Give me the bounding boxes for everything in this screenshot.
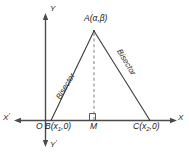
label-point-b-sub: 1 bbox=[58, 126, 61, 132]
label-point-a: A(α,β) bbox=[84, 14, 107, 23]
label-point-c-sub: 2 bbox=[146, 126, 149, 132]
label-point-c: C(x2,0) bbox=[133, 122, 160, 131]
label-origin: O bbox=[36, 122, 43, 131]
geometry-figure: A(α,β) O B(x1,0) M C(x2,0) X' X Y Y' Bis… bbox=[0, 0, 189, 158]
label-axis-y-positive: Y bbox=[50, 5, 55, 13]
triangle-side-ac bbox=[94, 31, 150, 121]
label-axis-y-negative: Y' bbox=[50, 141, 57, 149]
label-point-b-rest: ,0) bbox=[61, 121, 71, 131]
label-point-c-rest: ,0) bbox=[150, 121, 160, 131]
x-axis-arrow-left-icon bbox=[14, 118, 21, 123]
x-axis-arrow-right-icon bbox=[170, 118, 177, 123]
label-point-a-close: ) bbox=[105, 13, 108, 23]
label-axis-x-negative: X' bbox=[3, 114, 10, 122]
right-angle-marker-icon bbox=[90, 114, 96, 121]
label-point-b: B(x1,0) bbox=[45, 122, 71, 131]
label-axis-x-positive: X bbox=[178, 114, 183, 122]
label-axis-y-negative-prime: ' bbox=[55, 139, 56, 146]
apex-vertex-dot bbox=[93, 30, 95, 32]
label-axis-x-negative-prime: ' bbox=[8, 112, 9, 119]
figure-canvas bbox=[0, 0, 189, 158]
y-axis-arrow-up-icon bbox=[43, 13, 48, 20]
y-axis-arrow-down-icon bbox=[43, 140, 48, 147]
label-point-m: M bbox=[90, 122, 97, 131]
